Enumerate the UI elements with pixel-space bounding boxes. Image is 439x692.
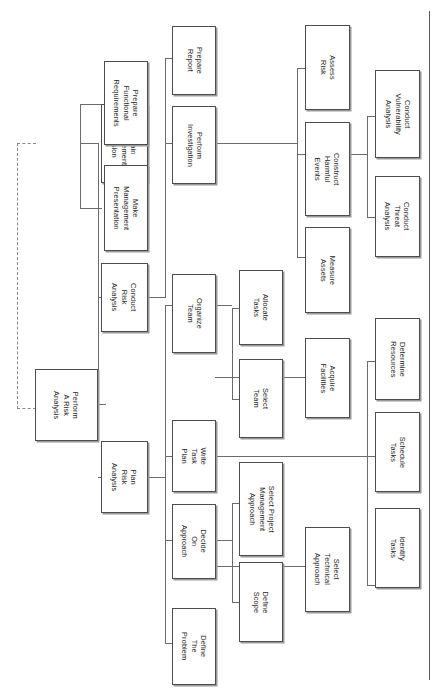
node-prepare-functional-requirements[interactable]: Prepare Functional Requirements bbox=[104, 61, 148, 145]
node-label: Allocate Tasks bbox=[252, 294, 271, 321]
node-label: Conduct Risk Analysis bbox=[110, 283, 138, 311]
connector-obtain-children-spine bbox=[80, 104, 81, 208]
node-plan-risk-analysis[interactable]: Plan Risk Analysis bbox=[101, 441, 148, 513]
node-determine-resources[interactable]: Determine Resources bbox=[375, 318, 420, 400]
node-conduct-vulnerability-analysis[interactable]: Conduct Vulnerability Analysis bbox=[375, 70, 420, 158]
node-select-team[interactable]: Select Team bbox=[239, 359, 283, 438]
connector-to-obtain bbox=[86, 143, 99, 144]
node-label: Construct Harmful Events bbox=[313, 153, 341, 186]
connector-decide-spine bbox=[232, 503, 233, 603]
node-root[interactable]: Perform A Risk Analysis bbox=[35, 369, 98, 441]
node-label: Conduct Threat Analysis bbox=[383, 202, 411, 230]
node-label: Identify Tasks bbox=[388, 536, 407, 561]
connector-write-task-spine bbox=[367, 361, 368, 585]
node-define-scope[interactable]: Define Scope bbox=[239, 562, 283, 642]
node-select-technical-approach[interactable]: Select Technical Approach bbox=[305, 527, 350, 612]
node-label: Determine Resources bbox=[388, 341, 407, 377]
node-label: Plan Risk Analysis bbox=[110, 463, 138, 491]
node-organize-team[interactable]: Organize Team bbox=[172, 274, 216, 353]
connector-perform-inv-spine bbox=[297, 68, 298, 257]
connector-organize-spine bbox=[232, 308, 233, 400]
node-label: Define The Problem bbox=[180, 632, 208, 660]
node-write-task-plan[interactable]: Write Task Plan bbox=[172, 420, 216, 492]
connector-construct-spine bbox=[367, 116, 368, 217]
node-label: Measure Assets bbox=[318, 255, 337, 284]
node-prepare-report[interactable]: Prepare Report bbox=[172, 26, 216, 95]
node-assess-risk[interactable]: Assess Risk bbox=[305, 25, 350, 110]
node-label: Assess Risk bbox=[318, 55, 337, 79]
node-label: Perform Investigation bbox=[185, 124, 204, 167]
node-label: Select Project Management Approach bbox=[247, 486, 275, 533]
node-acquire-facilities[interactable]: Acquire Facilities bbox=[305, 338, 350, 418]
node-conduct-threat-analysis[interactable]: Conduct Threat Analysis bbox=[375, 176, 420, 257]
connector-decide-out bbox=[215, 540, 232, 541]
connector-to-prep-func bbox=[80, 104, 102, 105]
node-label: Make Management Presentation bbox=[112, 186, 140, 230]
connector-plan-ra-spine bbox=[165, 305, 166, 643]
node-perform-investigation[interactable]: Perform Investigation bbox=[172, 106, 216, 184]
connector-level1-spine bbox=[98, 143, 99, 405]
connector-root-out bbox=[98, 404, 106, 405]
feedback-line-top bbox=[17, 143, 36, 144]
node-select-project-management-approach[interactable]: Select Project Management Approach bbox=[239, 462, 283, 556]
node-label: Select Team bbox=[252, 388, 271, 409]
node-label: Decide On Approach bbox=[180, 525, 208, 557]
page-border-right bbox=[429, 11, 430, 680]
node-label: Perform A Risk Analysis bbox=[52, 391, 80, 419]
node-identify-tasks[interactable]: Identify Tasks bbox=[375, 508, 420, 588]
connector-conduct-ra-spine bbox=[165, 58, 166, 298]
feedback-line-vertical bbox=[17, 143, 18, 409]
diagram-canvas: Perform A Risk Analysis Obtain Managemen… bbox=[0, 0, 439, 692]
node-label: Select Technical Approach bbox=[313, 553, 341, 585]
node-allocate-tasks[interactable]: Allocate Tasks bbox=[239, 270, 283, 345]
connector-plan-ra-out bbox=[148, 477, 165, 478]
node-construct-harmful-events[interactable]: Construct Harmful Events bbox=[305, 122, 350, 216]
node-label: Conduct Vulnerability Analysis bbox=[383, 93, 411, 134]
connector-write-task-out bbox=[215, 456, 367, 457]
connector-to-make-pres bbox=[80, 208, 102, 209]
node-label: Write Task Plan bbox=[180, 447, 208, 465]
node-label: Schedule Tasks bbox=[388, 436, 407, 468]
node-label: Prepare Functional Requirements bbox=[112, 79, 140, 126]
node-conduct-risk-analysis[interactable]: Conduct Risk Analysis bbox=[101, 263, 148, 332]
node-define-the-problem[interactable]: Define The Problem bbox=[172, 608, 216, 685]
node-measure-assets[interactable]: Measure Assets bbox=[305, 227, 350, 313]
connector-organize-out bbox=[215, 305, 232, 306]
node-label: Organize Team bbox=[185, 298, 204, 329]
connector-construct-out bbox=[350, 154, 367, 155]
node-schedule-tasks[interactable]: Schedule Tasks bbox=[375, 412, 420, 492]
connector-perform-inv-out bbox=[215, 143, 297, 144]
node-label: Prepare Report bbox=[185, 47, 204, 74]
feedback-line-bottom bbox=[17, 408, 36, 409]
node-make-management-presentation[interactable]: Make Management Presentation bbox=[104, 165, 148, 251]
node-label: Define Scope bbox=[252, 591, 271, 613]
node-decide-on-approach[interactable]: Decide On Approach bbox=[172, 504, 216, 579]
connector-conduct-ra-out bbox=[148, 297, 165, 298]
node-label: Acquire Facilities bbox=[318, 363, 337, 393]
